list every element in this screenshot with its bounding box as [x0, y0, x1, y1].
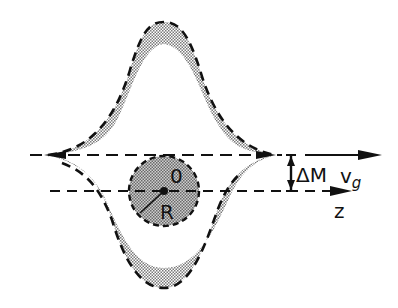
delta-m-marker [286, 155, 296, 191]
group-velocity-axis [30, 150, 382, 160]
z-axis [50, 186, 352, 196]
velocity-main: v [340, 164, 352, 188]
axis-label: z [334, 199, 345, 223]
radius-label: R [160, 200, 174, 224]
velocity-subscript: g [352, 174, 362, 192]
upper-lobe-band [48, 22, 275, 155]
velocity-label: vg [340, 164, 361, 192]
left-tip-arrow-icon [44, 151, 66, 159]
wavepacket-diagram: 0 R ΔM vg z [0, 0, 398, 308]
arrow-head-icon [358, 150, 382, 160]
origin-label: 0 [170, 164, 183, 188]
delta-m-label: ΔM [296, 163, 327, 187]
